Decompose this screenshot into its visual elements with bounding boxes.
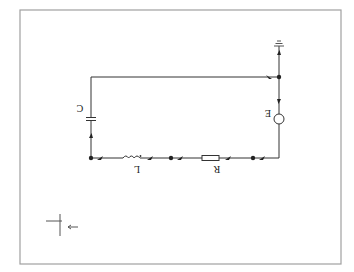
junction-dot (277, 75, 281, 79)
inductor-icon (123, 156, 140, 158)
direction-arrows (89, 50, 281, 160)
resistor-icon (202, 156, 219, 161)
ground-icon (274, 41, 284, 46)
label-resistor: R (213, 164, 220, 175)
junction-dots (89, 75, 281, 160)
junction-dot (251, 156, 255, 160)
label-capacitor: C (76, 103, 83, 114)
circuit-diagram: E C R L (0, 0, 354, 272)
voltage-source-icon (274, 114, 284, 124)
junction-dot (89, 156, 93, 160)
capacitor-icon (86, 118, 96, 121)
diagram-frame (20, 10, 341, 264)
orientation-marker (46, 214, 78, 236)
junction-dot (169, 156, 173, 160)
inductor-polarity-dot (140, 155, 142, 157)
label-inductor: L (134, 164, 140, 175)
label-source: E (265, 108, 271, 119)
